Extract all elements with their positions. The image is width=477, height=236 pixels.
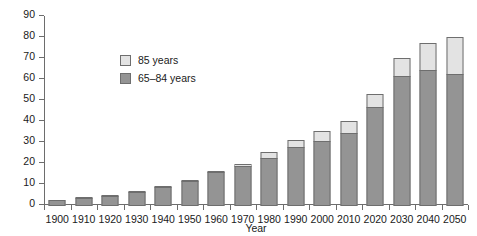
y-axis-tick-label: 30 bbox=[23, 134, 35, 146]
y-axis-tick-label: 70 bbox=[23, 50, 35, 62]
legend-item: 65–84 years bbox=[120, 69, 196, 87]
x-axis-tick bbox=[415, 205, 416, 210]
bar-slot: 1950 bbox=[177, 16, 204, 205]
bar-segment-65-84-years bbox=[181, 181, 198, 206]
bar-stack[interactable] bbox=[234, 164, 251, 205]
x-axis-tick bbox=[336, 205, 337, 210]
bar-slot: 1960 bbox=[203, 16, 230, 205]
bar-segment-85-years bbox=[420, 43, 437, 70]
bar-slot: 1970 bbox=[230, 16, 257, 205]
y-axis-tick-label: 20 bbox=[23, 155, 35, 167]
bar-slot: 1940 bbox=[150, 16, 177, 205]
bar-stack[interactable] bbox=[340, 121, 357, 205]
bar-segment-65-84-years bbox=[75, 198, 92, 206]
bar-slot: 2030 bbox=[389, 16, 416, 205]
bar-segment-85-years bbox=[367, 94, 384, 109]
legend-item: 85 years bbox=[120, 51, 196, 69]
bar-segment-65-84-years bbox=[340, 133, 357, 207]
bar-stack[interactable] bbox=[181, 180, 198, 205]
x-axis-tick bbox=[97, 205, 98, 210]
plot-area: 0102030405060708090 19001910192019301940… bbox=[44, 16, 468, 205]
bar-stack[interactable] bbox=[314, 131, 331, 205]
y-axis-tick-label: 10 bbox=[23, 176, 35, 188]
bar-slot: 1990 bbox=[283, 16, 310, 205]
bar-chart: Number 0102030405060708090 1900191019201… bbox=[0, 0, 477, 236]
x-axis-tick bbox=[362, 205, 363, 210]
bar-segment-65-84-years bbox=[287, 147, 304, 206]
bar-segment-65-84-years bbox=[314, 141, 331, 206]
x-axis-tick bbox=[283, 205, 284, 210]
bar-segment-65-84-years bbox=[155, 187, 172, 206]
bar-segment-65-84-years bbox=[102, 196, 119, 207]
x-axis-tick bbox=[150, 205, 151, 210]
chart-legend: 85 years65–84 years bbox=[120, 51, 196, 87]
bar-slot: 1930 bbox=[124, 16, 151, 205]
bar-stack[interactable] bbox=[102, 195, 119, 206]
bar-segment-65-84-years bbox=[49, 200, 66, 206]
x-axis-tick bbox=[468, 205, 469, 210]
bar-stack[interactable] bbox=[287, 140, 304, 205]
bar-segment-65-84-years bbox=[128, 192, 145, 206]
bar-stack[interactable] bbox=[446, 37, 463, 205]
y-axis-tick-label: 90 bbox=[23, 8, 35, 20]
bar-segment-65-84-years bbox=[420, 70, 437, 207]
bar-stack[interactable] bbox=[420, 43, 437, 205]
x-axis-tick bbox=[442, 205, 443, 210]
x-axis-tick bbox=[389, 205, 390, 210]
legend-swatch bbox=[120, 73, 131, 84]
bar-segment-65-84-years bbox=[367, 107, 384, 206]
bar-slot: 2040 bbox=[415, 16, 442, 205]
legend-label: 85 years bbox=[138, 54, 178, 66]
bar-slot: 2000 bbox=[309, 16, 336, 205]
legend-swatch bbox=[120, 55, 131, 66]
bar-slot: 2020 bbox=[362, 16, 389, 205]
bar-segment-85-years bbox=[393, 58, 410, 77]
x-axis-tick bbox=[177, 205, 178, 210]
bar-slot: 1910 bbox=[71, 16, 98, 205]
y-axis-tick-label: 0 bbox=[29, 197, 35, 209]
y-axis-tick-label: 40 bbox=[23, 113, 35, 125]
bar-stack[interactable] bbox=[155, 186, 172, 205]
bar-segment-65-84-years bbox=[393, 76, 410, 206]
bar-stack[interactable] bbox=[128, 191, 145, 205]
x-axis-title: Year bbox=[44, 222, 468, 234]
bar-segment-65-84-years bbox=[446, 74, 463, 206]
bar-stack[interactable] bbox=[49, 200, 66, 205]
bar-slot: 1980 bbox=[256, 16, 283, 205]
x-axis-tick bbox=[256, 205, 257, 210]
bar-slot: 2010 bbox=[336, 16, 363, 205]
bar-segment-65-84-years bbox=[234, 166, 251, 206]
x-axis-tick bbox=[203, 205, 204, 210]
bar-stack[interactable] bbox=[75, 197, 92, 205]
y-axis-tick-label: 80 bbox=[23, 29, 35, 41]
x-axis-tick bbox=[230, 205, 231, 210]
bar-stack[interactable] bbox=[367, 94, 384, 205]
bar-slot: 2050 bbox=[442, 16, 469, 205]
bar-slot: 1920 bbox=[97, 16, 124, 205]
bar-stack[interactable] bbox=[261, 152, 278, 205]
x-axis-tick bbox=[309, 205, 310, 210]
x-axis-tick bbox=[71, 205, 72, 210]
bar-segment-65-84-years bbox=[208, 172, 225, 206]
x-axis-tick bbox=[124, 205, 125, 210]
bar-slot: 1900 bbox=[44, 16, 71, 205]
y-axis-title: Number bbox=[0, 0, 16, 236]
y-axis-tick-label: 60 bbox=[23, 71, 35, 83]
bar-segment-65-84-years bbox=[261, 158, 278, 206]
bar-stack[interactable] bbox=[208, 171, 225, 205]
bars-group: 1900191019201930194019501960197019801990… bbox=[44, 16, 468, 205]
bar-stack[interactable] bbox=[393, 58, 410, 205]
bar-segment-85-years bbox=[446, 37, 463, 75]
legend-label: 65–84 years bbox=[138, 72, 196, 84]
x-axis-tick bbox=[44, 205, 45, 210]
y-axis-tick-label: 50 bbox=[23, 92, 35, 104]
